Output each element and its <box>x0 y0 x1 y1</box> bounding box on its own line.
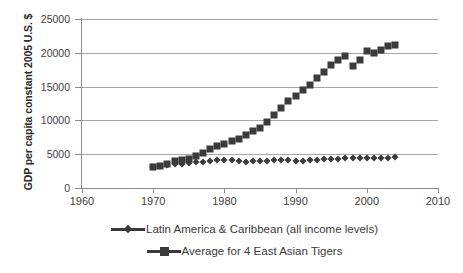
data-point <box>285 98 292 105</box>
data-point <box>164 160 171 167</box>
data-point <box>214 143 221 150</box>
chart-container: GDP per capita constant 2005 U.S. $ 0500… <box>0 0 463 273</box>
data-point <box>385 43 392 50</box>
legend-item-latin-america[interactable]: Latin America & Caribbean (all income le… <box>0 218 463 240</box>
data-point <box>214 157 221 164</box>
data-point <box>200 149 207 156</box>
x-tick <box>224 188 225 193</box>
data-point <box>321 68 328 75</box>
data-point <box>370 50 377 57</box>
y-tick <box>75 19 81 20</box>
data-point <box>264 157 271 164</box>
data-point <box>377 155 384 162</box>
x-tick-label: 1970 <box>128 195 178 207</box>
y-tick-label: 25000 <box>24 13 70 25</box>
data-point <box>249 127 256 134</box>
data-point <box>349 62 356 69</box>
x-tick-label: 1960 <box>57 195 107 207</box>
y-axis-line <box>81 18 82 189</box>
data-point <box>385 155 392 162</box>
data-point <box>192 152 199 159</box>
y-axis-title: GDP per capita constant 2005 U.S. $ <box>22 2 34 202</box>
data-point <box>278 104 285 111</box>
data-point <box>249 158 256 165</box>
y-tick-label: 10000 <box>24 114 70 126</box>
data-point <box>356 155 363 162</box>
gridline <box>82 19 438 20</box>
y-tick-label: 0 <box>24 182 70 194</box>
data-point <box>313 156 320 163</box>
x-tick <box>153 188 154 193</box>
data-point <box>328 61 335 68</box>
data-point <box>171 157 178 164</box>
gridline <box>82 120 438 121</box>
data-point <box>292 157 299 164</box>
x-tick-label: 1980 <box>199 195 249 207</box>
x-tick-label: 2000 <box>342 195 392 207</box>
data-point <box>299 86 306 93</box>
data-point <box>228 156 235 163</box>
data-point <box>349 154 356 161</box>
data-point <box>221 156 228 163</box>
data-point <box>292 93 299 100</box>
square-marker-icon <box>147 247 181 256</box>
y-tick <box>75 87 81 88</box>
y-tick-label: 5000 <box>24 148 70 160</box>
x-axis-line <box>81 188 438 189</box>
data-point <box>278 157 285 164</box>
data-point <box>321 156 328 163</box>
data-point <box>342 154 349 161</box>
plot-area: 0500010000150002000025000 19601970198019… <box>82 19 438 188</box>
data-point <box>271 111 278 118</box>
data-point <box>335 155 342 162</box>
x-tick <box>367 188 368 193</box>
gridline <box>82 154 438 155</box>
data-point <box>378 47 385 54</box>
data-point <box>199 158 206 165</box>
y-tick-label: 20000 <box>24 47 70 59</box>
data-point <box>392 41 399 48</box>
diamond-marker-icon <box>111 225 145 234</box>
data-point <box>228 138 235 145</box>
data-point <box>256 157 263 164</box>
data-point <box>306 81 313 88</box>
data-point <box>313 75 320 82</box>
data-point <box>363 47 370 54</box>
x-tick <box>82 188 83 193</box>
data-point <box>150 164 157 171</box>
data-point <box>335 56 342 63</box>
y-tick <box>75 120 81 121</box>
data-point <box>192 159 199 166</box>
data-point <box>271 157 278 164</box>
data-point <box>185 155 192 162</box>
data-point <box>221 141 228 148</box>
data-point <box>157 162 164 169</box>
x-tick <box>438 188 439 193</box>
data-point <box>242 132 249 139</box>
data-point <box>178 156 185 163</box>
y-tick <box>75 154 81 155</box>
gridline <box>82 53 438 54</box>
data-point <box>264 119 271 126</box>
legend-label: Average for 4 East Asian Tigers <box>182 245 343 257</box>
data-point <box>299 157 306 164</box>
data-point <box>242 158 249 165</box>
data-point <box>306 157 313 164</box>
data-point <box>342 53 349 60</box>
x-tick-label: 1990 <box>271 195 321 207</box>
chart-legend: Latin America & Caribbean (all income le… <box>0 218 463 262</box>
legend-item-east-asian-tigers[interactable]: Average for 4 East Asian Tigers <box>0 240 463 262</box>
data-point <box>356 56 363 63</box>
x-tick <box>296 188 297 193</box>
y-tick <box>75 53 81 54</box>
gridline <box>82 87 438 88</box>
data-point <box>285 157 292 164</box>
data-point <box>235 157 242 164</box>
x-tick-label: 2010 <box>413 195 463 207</box>
y-tick <box>75 188 81 189</box>
y-tick-label: 15000 <box>24 81 70 93</box>
data-point <box>328 156 335 163</box>
legend-label: Latin America & Caribbean (all income le… <box>146 223 378 235</box>
data-point <box>207 146 214 153</box>
data-point <box>257 124 264 131</box>
